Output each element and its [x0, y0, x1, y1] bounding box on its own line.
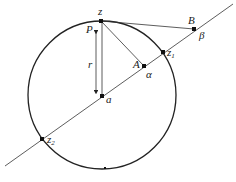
point-a [100, 94, 104, 98]
label-P: P [85, 23, 93, 35]
label-a: a [106, 93, 112, 105]
label-alpha: α [146, 68, 152, 80]
label-A: A [132, 58, 140, 70]
point-bottom [104, 167, 106, 169]
label-z1: z1 [166, 46, 175, 60]
label-z: z [97, 5, 103, 17]
point-z2 [40, 137, 44, 141]
point-z1 [161, 50, 165, 54]
point-B [192, 27, 196, 31]
point-z [99, 19, 103, 23]
label-r: r [88, 58, 93, 70]
diagram-canvas: z P r a A α B β z1 z2 [0, 0, 236, 182]
segment-z-B [101, 21, 194, 29]
label-B: B [188, 14, 195, 26]
label-z2: z2 [46, 133, 55, 147]
label-beta: β [198, 29, 205, 41]
